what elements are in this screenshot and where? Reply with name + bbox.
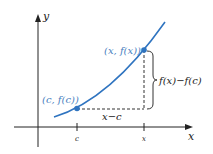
x-axis-label: x: [188, 130, 195, 143]
tick-x-label: x: [142, 135, 146, 143]
vertical-brace-icon: [147, 51, 157, 109]
vertical-difference-label: f(x)−f(c): [158, 75, 202, 86]
point-c-label: (c, f(c)): [42, 94, 79, 105]
point-x: [141, 47, 147, 53]
horizontal-difference-label: x−c: [102, 111, 122, 122]
point-c: [74, 106, 80, 112]
point-x-label: (x, f(x)): [104, 45, 141, 56]
diagram-canvas: y x c x (c, f(c)) (x, f(x)) f(x)−f(c) x−…: [0, 0, 213, 154]
y-axis-arrow-icon: [35, 14, 41, 22]
tick-c-label: c: [75, 135, 79, 143]
y-axis-label: y: [42, 10, 50, 23]
